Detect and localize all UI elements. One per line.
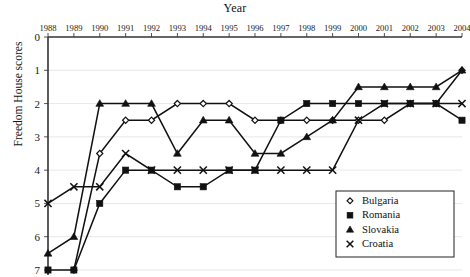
chart-container: Year Freedom House scores 19881989199019… [0,0,470,277]
x-tick-label: 1996 [246,23,264,33]
legend-item-label: Slovakia [362,224,399,235]
data-point-marker [303,133,311,140]
legend-item-label: Croatia [362,238,393,249]
y-tick-label: 0 [35,31,41,43]
data-point-marker [355,100,361,106]
data-point-marker [304,117,310,123]
x-ticks-group: 1988198919901991199219931994199519961997… [39,23,470,37]
x-tick-label: 2001 [376,23,393,33]
y-tick-label: 4 [35,164,41,176]
data-point-marker [459,117,465,123]
chart-legend: BulgariaRomaniaSlovakiaCroatia [336,191,454,257]
x-tick-label: 1993 [169,23,186,33]
x-tick-label: 1999 [324,23,341,33]
x-tick-label: 1990 [91,23,108,33]
y-tick-label: 5 [35,197,41,209]
x-tick-label: 2000 [350,23,367,33]
x-tick-label: 1991 [117,23,134,33]
x-tick-label: 1998 [298,23,315,33]
data-point-marker [123,167,129,173]
data-point-marker [278,117,284,123]
y-tick-label: 1 [35,64,41,76]
data-point-marker [347,212,353,218]
x-tick-label: 1997 [272,23,290,33]
legend-item-label: Romania [362,209,401,220]
x-tick-label: 1992 [143,23,160,33]
x-tick-label: 1994 [195,23,213,33]
data-point-marker [71,267,77,273]
data-point-marker [70,233,78,240]
y-tick-label: 2 [35,98,41,110]
data-point-marker [200,184,206,190]
y-tick-label: 6 [35,231,41,243]
line-chart-plot: 1988198919901991199219931994199519961997… [0,0,470,277]
legend-item-label: Bulgaria [362,195,399,206]
data-point-marker [330,100,336,106]
x-tick-label: 2002 [402,23,419,33]
data-point-marker [304,100,310,106]
x-tick-label: 1989 [65,23,82,33]
y-ticks-group: 01234567 [35,31,49,276]
y-tick-label: 7 [35,264,41,276]
data-point-marker [44,249,52,256]
data-point-marker [174,184,180,190]
y-tick-label: 3 [35,131,41,143]
data-point-marker [97,200,103,206]
data-point-marker [45,267,51,273]
x-tick-label: 2003 [428,23,445,33]
x-tick-label: 1988 [39,23,56,33]
x-tick-label: 1995 [221,23,238,33]
x-tick-label: 2004 [453,23,470,33]
data-point-marker [200,100,206,106]
